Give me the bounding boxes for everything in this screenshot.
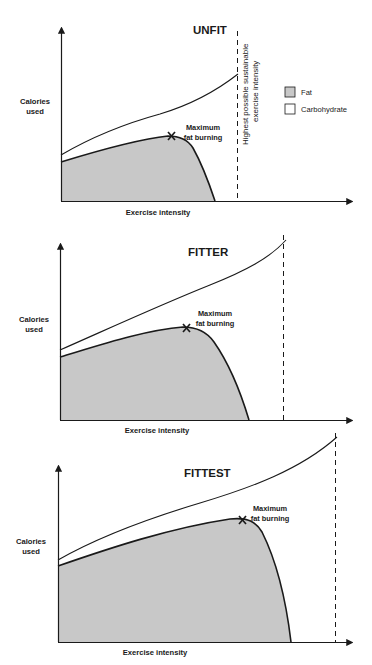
panel-fitter: FITTER Calories used Exercise intensity … bbox=[19, 235, 352, 435]
fat-area bbox=[60, 327, 249, 420]
y-axis-label-line1: Calories bbox=[20, 97, 50, 106]
legend-label-fat: Fat bbox=[301, 88, 313, 97]
x-axis-label: Exercise intensity bbox=[125, 426, 190, 435]
panel-title: FITTER bbox=[188, 246, 229, 258]
panel-title: UNFIT bbox=[193, 24, 227, 36]
marker-label-line1: Maximum bbox=[186, 123, 221, 132]
fitness-fat-burning-diagram: UNFIT Calories used Exercise intensity M… bbox=[0, 0, 372, 665]
marker-label-line1: Maximum bbox=[253, 504, 288, 513]
y-axis-label-line2: used bbox=[22, 547, 40, 556]
panel-unfit: UNFIT Calories used Exercise intensity M… bbox=[20, 24, 352, 217]
marker-label-line2: fat burning bbox=[196, 319, 235, 328]
x-axis-label: Exercise intensity bbox=[123, 648, 188, 657]
marker-label-line2: fat burning bbox=[251, 514, 290, 523]
y-axis-label-line1: Calories bbox=[16, 537, 46, 546]
y-axis-label-line2: used bbox=[26, 107, 44, 116]
max-intensity-label-line1: Highest possible sustainable bbox=[241, 43, 250, 145]
y-axis-label-line2: used bbox=[25, 325, 43, 334]
max-intensity-label-line2: exercise intensity bbox=[251, 61, 260, 122]
marker-label-line1: Maximum bbox=[198, 309, 233, 318]
legend: Fat Carbohydrate bbox=[285, 87, 347, 114]
x-axis-label: Exercise intensity bbox=[126, 208, 191, 217]
panel-title: FITTEST bbox=[184, 467, 231, 479]
legend-label-carbohydrate: Carbohydrate bbox=[301, 105, 347, 114]
marker-label-line2: fat burning bbox=[184, 133, 223, 142]
legend-swatch-fat bbox=[285, 87, 295, 97]
fat-area bbox=[58, 519, 291, 642]
panel-fittest: FITTEST Calories used Exercise intensity… bbox=[16, 433, 352, 657]
legend-swatch-carbohydrate bbox=[285, 104, 295, 114]
y-axis-label-line1: Calories bbox=[19, 315, 49, 324]
